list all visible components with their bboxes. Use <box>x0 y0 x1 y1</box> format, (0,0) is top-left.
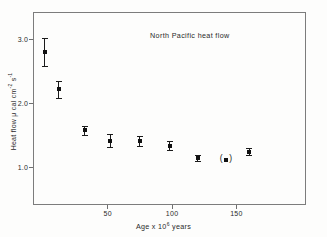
data-point-marker <box>83 128 87 132</box>
x-tick-mark <box>236 205 237 209</box>
error-bar-cap-top <box>42 38 48 39</box>
y-tick-label: 2.0 <box>18 99 28 106</box>
heat-flow-figure: North Pacific heat flow 1.02.03.0 501001… <box>0 0 327 237</box>
error-bar-cap-bottom <box>42 66 48 67</box>
error-bar-cap-top <box>137 136 143 137</box>
y-axis-title-mid: s <box>10 78 17 84</box>
x-tick-label: 100 <box>166 210 179 217</box>
x-axis-title: Age x 106 years <box>0 222 327 231</box>
y-axis-title-pre: Heat flow μ cal cm <box>10 89 17 151</box>
y-axis-title-exp1: -2 <box>7 84 13 89</box>
bracket-right: ) <box>229 154 232 163</box>
error-bar-cap-bottom <box>137 146 143 147</box>
y-tick-label: 1.0 <box>18 164 28 171</box>
y-tick-mark <box>29 103 33 104</box>
x-tick-mark <box>172 205 173 209</box>
error-bar-cap-bottom <box>195 161 201 162</box>
y-axis-title: Heat flow μ cal cm-2 s-1 <box>10 52 17 172</box>
y-tick-mark <box>29 167 33 168</box>
error-bar-cap-top <box>107 134 113 135</box>
y-axis-title-exp2: -1 <box>7 73 13 78</box>
data-point-marker <box>108 139 112 143</box>
data-point-marker <box>224 158 228 162</box>
error-bar-cap-top <box>56 81 62 82</box>
x-axis-title-pre: Age x 10 <box>136 222 167 231</box>
bracket-left: ( <box>220 154 223 163</box>
chart-title: North Pacific heat flow <box>150 31 230 40</box>
error-bar-cap-bottom <box>167 150 173 151</box>
y-tick-mark <box>29 39 33 40</box>
error-bar-cap-top <box>167 141 173 142</box>
plot-frame <box>33 12 306 205</box>
data-point-marker <box>247 150 251 154</box>
y-tick-label: 3.0 <box>18 35 28 42</box>
data-point-marker <box>43 50 47 54</box>
x-tick-label: 150 <box>230 210 243 217</box>
error-bar-cap-top <box>82 126 88 127</box>
error-bar-cap-bottom <box>56 98 62 99</box>
error-bar-cap-top <box>246 148 252 149</box>
data-point-marker <box>168 144 172 148</box>
error-bar-cap-bottom <box>246 155 252 156</box>
error-bar-cap-bottom <box>107 147 113 148</box>
x-axis-title-post: years <box>170 222 191 231</box>
x-tick-label: 50 <box>104 210 112 217</box>
data-point-marker <box>138 139 142 143</box>
x-tick-mark <box>107 205 108 209</box>
data-point-marker <box>196 156 200 160</box>
error-bar-cap-bottom <box>82 135 88 136</box>
data-point-marker <box>57 87 61 91</box>
